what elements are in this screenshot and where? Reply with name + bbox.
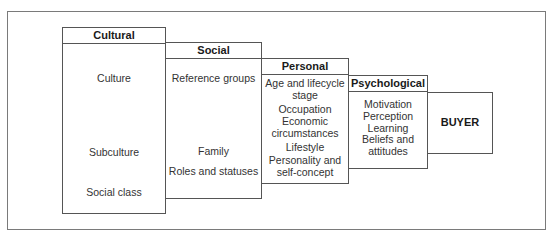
personal-item-personality-1: Personality and <box>262 154 348 166</box>
cultural-item-subculture: Subculture <box>63 146 165 158</box>
buyer-label: BUYER <box>428 116 492 128</box>
cultural-header: Cultural <box>63 28 165 44</box>
psychological-item-motivation: Motivation <box>349 98 427 110</box>
psychological-item-beliefs-1: Beliefs and <box>349 133 427 145</box>
personal-item-age-lifecycle-2: stage <box>262 89 348 101</box>
social-item-roles-statuses: Roles and statuses <box>166 165 261 177</box>
psychological-header: Psychological <box>349 76 427 92</box>
psychological-item-perception: Perception <box>349 110 427 122</box>
personal-header: Personal <box>262 59 348 75</box>
cultural-box: Cultural Culture Subculture Social class <box>62 27 166 214</box>
personal-item-personality-2: self-concept <box>262 166 348 178</box>
personal-item-economic-1: Economic <box>262 115 348 127</box>
cultural-item-social-class: Social class <box>63 186 165 198</box>
psychological-box: Psychological Motivation Perception Lear… <box>348 75 428 169</box>
personal-item-economic-2: circumstances <box>262 127 348 139</box>
social-header: Social <box>166 43 261 59</box>
personal-item-age-lifecycle-1: Age and lifecycle <box>262 77 348 89</box>
personal-box: Personal Age and lifecycle stage Occupat… <box>261 58 349 184</box>
cultural-item-culture: Culture <box>63 72 165 84</box>
personal-item-lifestyle: Lifestyle <box>262 141 348 153</box>
psychological-item-beliefs-2: attitudes <box>349 145 427 157</box>
buyer-box: BUYER <box>427 92 493 154</box>
personal-item-occupation: Occupation <box>262 103 348 115</box>
social-item-family: Family <box>166 145 261 157</box>
social-box: Social Reference groups Family Roles and… <box>165 42 262 199</box>
social-item-reference-groups: Reference groups <box>166 72 261 84</box>
